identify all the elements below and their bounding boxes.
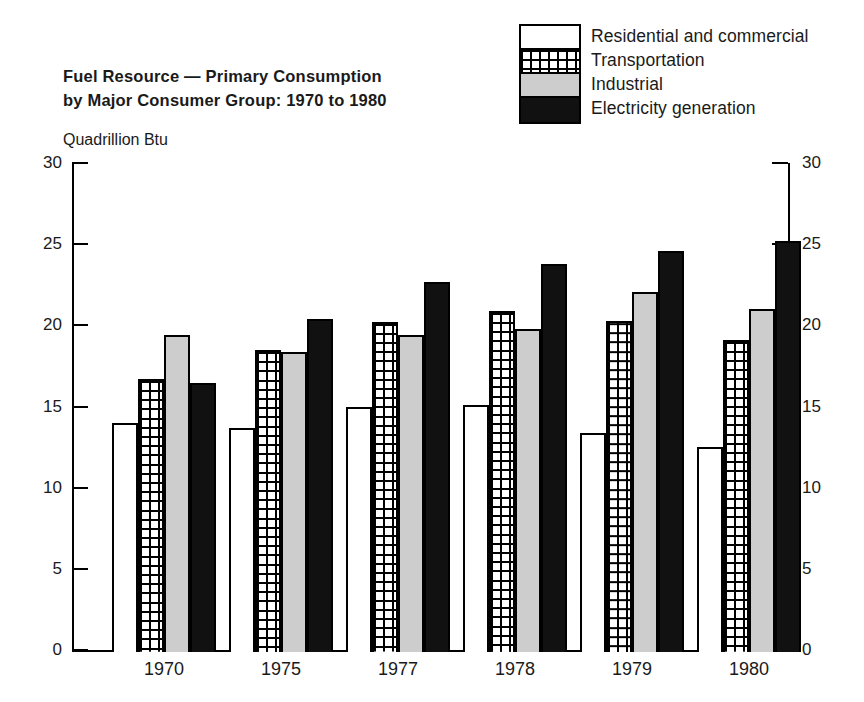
y-tick-label-left-15: 15: [22, 398, 62, 415]
bar-group-1978: [463, 163, 567, 652]
bar-1978-transportation: [489, 311, 515, 652]
y-tick-left-10: [72, 487, 88, 489]
bar-1979-electricity-generation: [658, 251, 684, 652]
y-tick-left-0: [72, 649, 88, 651]
y-tick-label-left-20: 20: [22, 316, 62, 333]
bar-1975-transportation: [255, 350, 281, 652]
bar-1977-transportation: [372, 322, 398, 652]
bar-1980-electricity-generation: [775, 241, 801, 652]
legend-item-industrial: Industrial: [591, 72, 809, 96]
bar-1970-electricity-generation: [190, 383, 216, 652]
bar-1977-residential-and-commercial: [346, 407, 372, 652]
chart-title-line-1: Fuel Resource — Primary Consumption: [63, 64, 387, 88]
x-axis-label-1970: 1970: [109, 659, 219, 680]
y-tick-label-right-25: 25: [802, 235, 842, 252]
grid-pattern-swatch-icon: [521, 50, 579, 74]
bar-1977-industrial: [398, 335, 424, 652]
bar-group-1970: [112, 163, 216, 652]
y-tick-label-left-10: 10: [22, 479, 62, 496]
y-tick-label-right-0: 0: [802, 641, 842, 658]
y-tick-left-25: [72, 243, 88, 245]
plot-area: 302520151050 302520151050 19701975197719…: [72, 163, 790, 652]
y-tick-label-right-20: 20: [802, 316, 842, 333]
bar-1980-transportation: [723, 340, 749, 652]
bar-group-1975: [229, 163, 333, 652]
y-tick-left-30: [72, 162, 88, 164]
chart-title-line-2: by Major Consumer Group: 1970 to 1980: [63, 88, 387, 112]
y-tick-left-5: [72, 568, 88, 570]
legend-item-transportation: Transportation: [591, 48, 809, 72]
x-axis-label-1975: 1975: [226, 659, 336, 680]
y-tick-left-15: [72, 406, 88, 408]
y-tick-label-left-5: 5: [22, 560, 62, 577]
y-tick-label-right-5: 5: [802, 560, 842, 577]
legend-item-residential-and-commercial: Residential and commercial: [591, 24, 809, 48]
bar-group-1979: [580, 163, 684, 652]
y-tick-left-20: [72, 324, 88, 326]
black-swatch-icon: [521, 98, 579, 122]
legend-label-column: Residential and commercial Transportatio…: [591, 24, 809, 120]
y-tick-label-right-30: 30: [802, 154, 842, 171]
bar-1975-electricity-generation: [307, 319, 333, 652]
bar-1980-residential-and-commercial: [697, 447, 723, 652]
bar-1975-industrial: [281, 352, 307, 652]
bar-1978-residential-and-commercial: [463, 405, 489, 652]
bar-1978-industrial: [515, 329, 541, 652]
bar-1970-transportation: [138, 379, 164, 652]
bar-1970-residential-and-commercial: [112, 423, 138, 652]
bar-1978-electricity-generation: [541, 264, 567, 652]
legend-swatch-column: [519, 24, 581, 124]
bar-1979-industrial: [632, 292, 658, 652]
y-tick-label-right-10: 10: [802, 479, 842, 496]
y-axis-unit-label: Quadrillion Btu: [63, 131, 168, 149]
white-swatch-icon: [521, 26, 579, 50]
y-tick-label-left-0: 0: [22, 641, 62, 658]
bar-1970-industrial: [164, 335, 190, 652]
x-axis-label-1977: 1977: [343, 659, 453, 680]
y-tick-label-left-30: 30: [22, 154, 62, 171]
bar-1975-residential-and-commercial: [229, 428, 255, 652]
bar-1979-residential-and-commercial: [580, 433, 606, 652]
y-tick-label-left-25: 25: [22, 235, 62, 252]
bar-1977-electricity-generation: [424, 282, 450, 652]
x-axis-label-1978: 1978: [460, 659, 570, 680]
bar-group-1977: [346, 163, 450, 652]
legend-item-electricity-generation: Electricity generation: [591, 96, 809, 120]
chart-legend: Residential and commercial Transportatio…: [519, 24, 809, 124]
y-axis-left-line: [72, 163, 74, 652]
x-axis-label-1980: 1980: [694, 659, 804, 680]
bar-1980-industrial: [749, 309, 775, 652]
y-tick-label-right-15: 15: [802, 398, 842, 415]
x-axis-label-1979: 1979: [577, 659, 687, 680]
bar-group-1980: [697, 163, 801, 652]
chart-title: Fuel Resource — Primary Consumption by M…: [63, 64, 387, 112]
gray-swatch-icon: [521, 74, 579, 98]
bar-1979-transportation: [606, 321, 632, 652]
